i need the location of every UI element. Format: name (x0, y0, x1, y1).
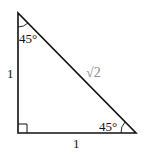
bottom-side-label: 1 (73, 136, 80, 151)
right-angle-marker (18, 124, 27, 133)
top-angle-arc (18, 23, 28, 27)
bottom-right-angle-arc (121, 122, 125, 133)
triangle-diagram: 45° 45° 1 1 √2 (0, 0, 144, 157)
top-angle-label: 45° (19, 31, 37, 46)
left-side-label: 1 (7, 66, 14, 81)
bottom-right-angle-label: 45° (99, 119, 117, 134)
hypotenuse-label: √2 (86, 65, 101, 80)
